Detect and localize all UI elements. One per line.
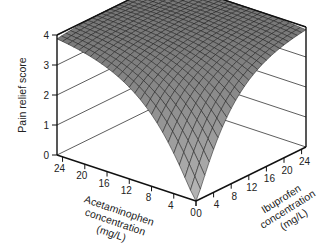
z-tick-label: 1 xyxy=(43,120,49,131)
z-tick-label: 0 xyxy=(43,150,49,161)
y-tick-label: 16 xyxy=(264,173,276,184)
y-tick-label: 24 xyxy=(299,156,311,167)
y-tick-label: 12 xyxy=(246,182,258,193)
z-tick-label: 3 xyxy=(43,60,49,71)
z-tick-label: 2 xyxy=(43,90,49,101)
x-tick-label: 20 xyxy=(76,170,88,181)
z-axis-ticks: 01234 xyxy=(43,30,57,161)
x-tick-label: 12 xyxy=(121,185,133,196)
response-surface xyxy=(57,0,306,201)
surface-chart: 01234 04812162024 04812162024 Pain relie… xyxy=(0,0,328,251)
x-axis-title: Acetaminophen concentration (mg/L) xyxy=(75,193,156,251)
y-tick-label: 8 xyxy=(231,191,237,202)
y-tick-label: 4 xyxy=(214,199,220,210)
y-axis-title: Ibuprofen concentration (mg/L) xyxy=(251,177,324,241)
z-tick-label: 4 xyxy=(43,30,49,41)
x-tick-label: 8 xyxy=(146,192,152,203)
x-tick-label: 24 xyxy=(54,163,66,174)
x-tick-label: 16 xyxy=(98,178,110,189)
x-tick-label: 4 xyxy=(168,200,174,211)
z-axis-title: Pain relief score xyxy=(16,57,28,132)
y-tick-label: 20 xyxy=(281,165,293,176)
y-tick-label: 0 xyxy=(196,208,202,219)
